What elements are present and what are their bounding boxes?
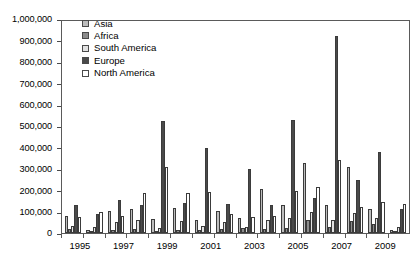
x-axis-tick-mark: [126, 234, 127, 238]
y-axis-tick-label: 600,000: [19, 101, 52, 110]
bar-group: [236, 21, 258, 233]
x-axis-tick-label: 2003: [236, 240, 258, 260]
legend-item-label: North America: [94, 68, 155, 78]
bar: [360, 207, 363, 233]
bar: [208, 192, 211, 233]
x-axis-tick-label: 1999: [148, 240, 170, 260]
bar: [381, 202, 384, 233]
legend-swatch-icon: [82, 57, 89, 64]
legend-item-label: Africa: [94, 31, 119, 41]
legend-swatch-icon: [82, 32, 89, 39]
bar-group: [387, 21, 409, 233]
x-axis-tick-mark: [192, 234, 193, 238]
x-axis-tick-label-text: 1995: [69, 240, 90, 252]
legend-swatch-icon: [82, 70, 89, 77]
x-axis-tick-mark: [345, 234, 346, 238]
x-axis-tick-mark: [257, 234, 258, 238]
bar-group: [322, 21, 344, 233]
bar-group: [170, 21, 192, 233]
y-axis-tick-label: 700,000: [19, 80, 52, 89]
x-axis-tick-mark: [388, 234, 389, 238]
y-axis: 1,000,000900,000800,000700,000600,000500…: [0, 0, 57, 269]
x-axis-tick-slot: [345, 234, 367, 239]
y-axis-tick-label: 0: [47, 229, 52, 238]
y-axis-tick-label: 200,000: [19, 187, 52, 196]
x-axis-tick-label-text: 2005: [288, 240, 309, 252]
legend-swatch-icon: [82, 45, 89, 52]
x-axis-tick-slot: [61, 234, 83, 239]
bar: [186, 193, 189, 233]
legend-item[interactable]: North America: [82, 68, 156, 79]
bar: [251, 217, 254, 233]
x-axis-tick-label-text: 2007: [331, 240, 352, 252]
y-axis-tick-label: 1,000,000: [12, 15, 52, 24]
x-axis-tick-slot: [236, 234, 258, 239]
x-axis-tick-slot: [192, 234, 214, 239]
x-axis-tick-slot: [323, 234, 345, 239]
legend-item-label: Asia: [94, 19, 113, 29]
x-axis-tick-slot: [126, 234, 148, 239]
bar-chart: 1,000,000900,000800,000700,000600,000500…: [0, 0, 412, 269]
x-axis-tick-mark: [214, 234, 215, 238]
x-axis-tick-slot: [366, 234, 388, 239]
legend-item[interactable]: Africa: [82, 30, 156, 41]
bar: [99, 212, 102, 233]
x-axis-tick-label-text: 1997: [113, 240, 134, 252]
x-axis-tick-label: 1997: [105, 240, 127, 260]
x-axis-tick-mark: [236, 234, 237, 238]
legend-item[interactable]: Europe: [82, 55, 156, 66]
x-axis-tick-slot: [279, 234, 301, 239]
x-axis-tick-mark: [148, 234, 149, 238]
x-axis-tick-label: 2001: [192, 240, 214, 260]
x-axis-tick-slot: [105, 234, 127, 239]
y-axis-tick-label: 900,000: [19, 37, 52, 46]
x-axis-tick-label-text: 1999: [157, 240, 178, 252]
x-axis-tick-slot: [257, 234, 279, 239]
x-axis-tick-mark: [301, 234, 302, 238]
x-axis-tick-label-text: 2001: [200, 240, 221, 252]
bar-group: [366, 21, 388, 233]
y-axis-tick-label: 400,000: [19, 144, 52, 153]
x-axis-tick-label: 1995: [61, 240, 83, 260]
bar: [403, 204, 406, 233]
x-axis-tick-slot: [170, 234, 192, 239]
x-axis-tick-mark: [61, 234, 62, 238]
bar-group: [192, 21, 214, 233]
x-axis-tick-mark: [366, 234, 367, 238]
bar: [121, 216, 124, 233]
x-axis-tick-label: 2005: [279, 240, 301, 260]
bar: [273, 216, 276, 233]
bar-group: [344, 21, 366, 233]
x-axis-tick-slot: [148, 234, 170, 239]
x-axis-tick-mark: [83, 234, 84, 238]
bar-group: [62, 21, 84, 233]
bar: [78, 217, 81, 233]
bar: [143, 193, 146, 233]
bar: [295, 191, 298, 233]
x-axis-tick-mark: [105, 234, 106, 238]
y-axis-tick-label: 800,000: [19, 58, 52, 67]
x-axis-tick-label-text: 2003: [244, 240, 265, 252]
bar-group: [301, 21, 323, 233]
x-axis-tick-label: 2009: [366, 240, 388, 260]
x-axis-tick-label: 2007: [323, 240, 345, 260]
x-axis-tick-slot: [83, 234, 105, 239]
bar-group: [257, 21, 279, 233]
bar-group: [279, 21, 301, 233]
legend-item-label: South America: [94, 43, 156, 53]
x-axis-tick-mark: [323, 234, 324, 238]
legend-swatch-icon: [82, 20, 89, 27]
y-axis-tick-label: 300,000: [19, 165, 52, 174]
bar-group: [214, 21, 236, 233]
x-axis-tick-slot: [388, 234, 410, 239]
bar: [338, 160, 341, 233]
x-axis-tick-label-text: 2009: [375, 240, 396, 252]
x-axis: 19951997199920012003200520072009: [61, 240, 410, 260]
bar: [260, 189, 263, 233]
bar: [165, 167, 168, 233]
x-axis-tick-mark: [170, 234, 171, 238]
legend-item[interactable]: South America: [82, 43, 156, 54]
y-axis-tick-label: 500,000: [19, 122, 52, 131]
y-axis-tick-label: 100,000: [19, 208, 52, 217]
legend-item[interactable]: Asia: [82, 18, 156, 29]
